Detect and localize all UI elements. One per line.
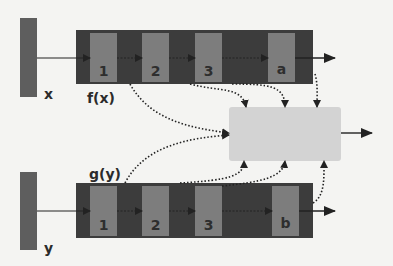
combiner-box — [229, 107, 341, 161]
cell-g-1-label: 1 — [90, 217, 117, 233]
cell-f-a-label: a — [268, 61, 295, 77]
cell-f-1-label: 1 — [90, 63, 117, 79]
encoder-label-g: g(y) — [89, 166, 121, 182]
input-label-x: x — [44, 86, 53, 102]
cell-g-b-label: b — [272, 215, 299, 231]
input-bar-x — [20, 18, 37, 97]
encoder-label-f: f(x) — [87, 90, 115, 106]
cell-f-2-label: 2 — [142, 63, 169, 79]
input-bar-y — [20, 172, 37, 250]
input-label-y: y — [44, 240, 53, 256]
cell-g-2-label: 2 — [142, 217, 169, 233]
cell-g-3-label: 3 — [195, 217, 222, 233]
cell-f-3-label: 3 — [195, 63, 222, 79]
